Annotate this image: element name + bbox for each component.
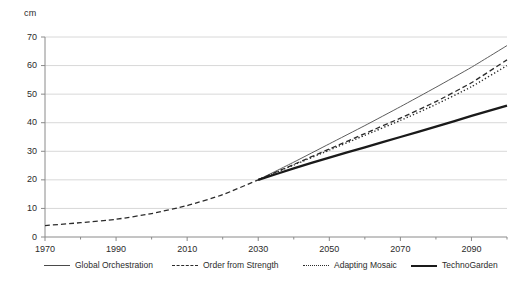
x-tick-label: 1970 <box>25 245 65 254</box>
x-tick-label: 2070 <box>380 245 420 254</box>
x-tick-label: 2050 <box>309 245 349 254</box>
legend-line-solid-thick-icon <box>411 260 437 270</box>
x-tick-label: 2030 <box>238 245 278 254</box>
legend-line-solid-thin-icon <box>44 260 70 270</box>
series-line <box>258 60 507 180</box>
y-tick-label: 20 <box>15 175 37 184</box>
y-tick-label: 60 <box>15 61 37 70</box>
axis-lines <box>45 37 507 237</box>
y-tick-label: 50 <box>15 90 37 99</box>
x-tick-label: 2090 <box>451 245 491 254</box>
y-axis-ticks <box>41 37 45 237</box>
legend-label: Adapting Mosaic <box>334 260 397 270</box>
historical-line <box>45 180 258 226</box>
gridlines <box>45 37 507 208</box>
chart-container: cm 010203040506070 197019902010203020502… <box>0 0 517 283</box>
legend-item-technogarden[interactable]: TechnoGarden <box>411 258 498 272</box>
historical-series-line <box>45 180 258 226</box>
y-tick-label: 10 <box>15 204 37 213</box>
y-tick-label: 40 <box>15 118 37 127</box>
chart-legend: Global Orchestration Order from Strength… <box>0 258 517 274</box>
legend-label: Order from Strength <box>203 260 279 270</box>
x-axis-ticks <box>45 237 507 241</box>
legend-line-dotted-icon <box>303 260 329 270</box>
chart-plot-area <box>0 0 517 283</box>
y-tick-label: 0 <box>15 233 37 242</box>
legend-item-order-from-strength[interactable]: Order from Strength <box>172 258 279 272</box>
y-tick-label: 70 <box>15 33 37 42</box>
y-tick-label: 30 <box>15 147 37 156</box>
legend-label: TechnoGarden <box>442 260 498 270</box>
legend-line-dashed-icon <box>172 260 198 270</box>
x-tick-label: 2010 <box>167 245 207 254</box>
legend-label: Global Orchestration <box>75 260 153 270</box>
series-line <box>258 106 507 180</box>
legend-item-adapting-mosaic[interactable]: Adapting Mosaic <box>303 258 397 272</box>
legend-item-global-orchestration[interactable]: Global Orchestration <box>44 258 153 272</box>
x-tick-label: 1990 <box>96 245 136 254</box>
